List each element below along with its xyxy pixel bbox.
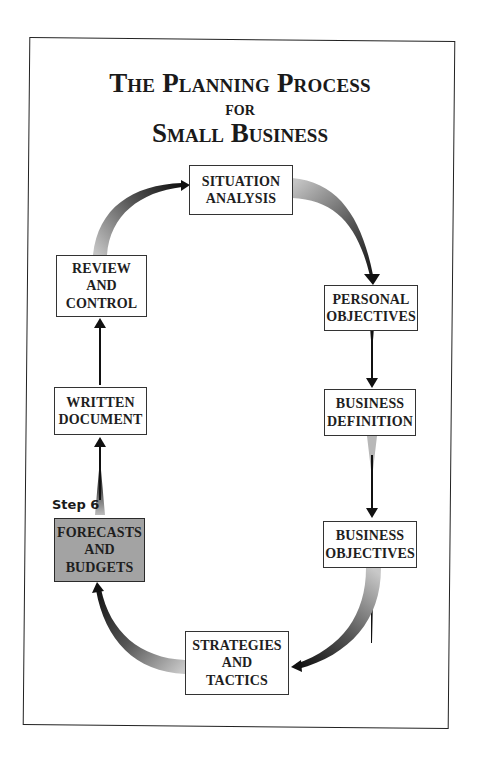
node-situation-analysis: SITUATION ANALYSIS xyxy=(189,165,293,215)
node-strategies-and-tactics: STRATEGIES AND TACTICS xyxy=(185,631,289,695)
node-personal-objectives: PERSONAL OBJECTIVES xyxy=(324,285,418,331)
node-business-definition: BUSINESS DEFINITION xyxy=(324,389,416,436)
step-label: Step 6 xyxy=(52,497,99,512)
node-forecasts-and-budgets: FORECASTS AND BUDGETS xyxy=(54,518,145,582)
arrow-written-to-review xyxy=(94,318,106,385)
node-written-document: WRITTEN DOCUMENT xyxy=(54,387,147,435)
arrow-review-to-situation xyxy=(93,180,190,255)
arrow-situation-to-personal xyxy=(292,178,380,285)
node-review-and-control: REVIEW AND CONTROL xyxy=(56,255,147,317)
node-business-objectives: BUSINESS OBJECTIVES xyxy=(323,521,417,568)
arrow-strategies-to-forecasts xyxy=(92,582,185,674)
arrow-objectives-to-strategies xyxy=(291,568,381,672)
